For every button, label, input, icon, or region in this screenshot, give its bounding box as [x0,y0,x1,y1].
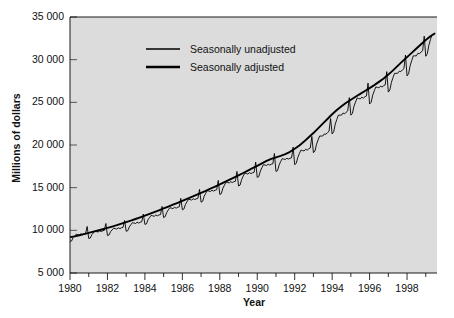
x-tick-label: 1980 [50,282,90,294]
y-tick-label: 10 000 [8,223,64,235]
x-tick-label: 1988 [200,282,240,294]
y-tick-label: 30 000 [8,53,64,65]
x-tick-label: 1990 [237,282,277,294]
y-tick-label: 5 000 [8,266,64,278]
x-tick-label: 1996 [350,282,390,294]
y-axis-tick-labels: 5 00010 00015 00020 00025 00030 00035 00… [6,0,64,318]
y-tick-label: 35 000 [8,10,64,22]
x-tick-label: 1992 [275,282,315,294]
x-tick-label: 1982 [87,282,127,294]
x-axis-title: Year [70,296,438,308]
legend-label-seasonally-adjusted: Seasonally adjusted [190,61,284,73]
x-tick-label: 1984 [125,282,165,294]
plot-background [70,17,437,273]
x-tick-label: 1994 [312,282,352,294]
x-tick-label: 1986 [162,282,202,294]
y-tick-label: 15 000 [8,181,64,193]
y-tick-label: 20 000 [8,138,64,150]
plot-svg: Seasonally unadjusted Seasonally adjuste… [0,0,454,318]
y-tick-label: 25 000 [8,95,64,107]
x-tick-label: 1998 [387,282,427,294]
legend-label-seasonally-unadjusted: Seasonally unadjusted [190,43,296,55]
chart-container: Millions of dollars Year 5 00010 00015 0… [0,0,454,318]
